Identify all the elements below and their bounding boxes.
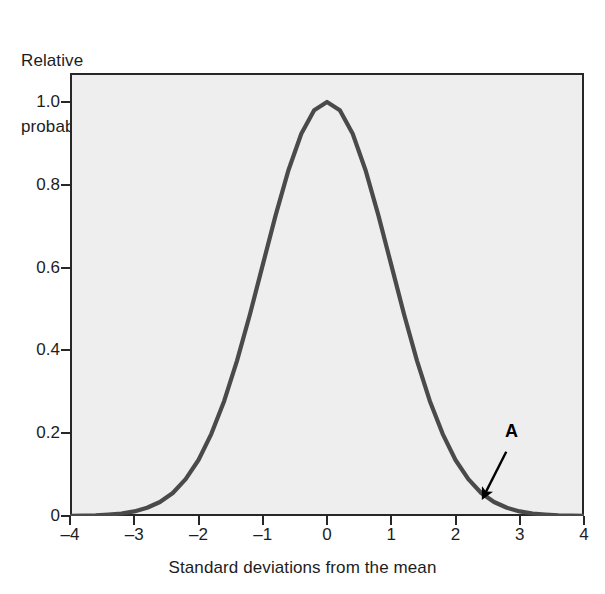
- figure-normal-distribution: Relative probability 00.20.40.60.81.0 –4…: [0, 0, 605, 594]
- x-tick-label: 4: [564, 525, 604, 545]
- x-axis-tick-labels: –4–3–2–101234: [0, 0, 605, 594]
- x-tick-label: –2: [179, 525, 219, 545]
- x-tick-label: 2: [436, 525, 476, 545]
- x-tick-label: –3: [114, 525, 154, 545]
- x-tick-label: 1: [371, 525, 411, 545]
- annotation-label-a: A: [505, 421, 518, 442]
- x-tick-label: 3: [500, 525, 540, 545]
- x-tick-label: –4: [50, 525, 90, 545]
- x-tick-label: 0: [307, 525, 347, 545]
- x-axis-title: Standard deviations from the mean: [0, 558, 605, 578]
- x-tick-label: –1: [243, 525, 283, 545]
